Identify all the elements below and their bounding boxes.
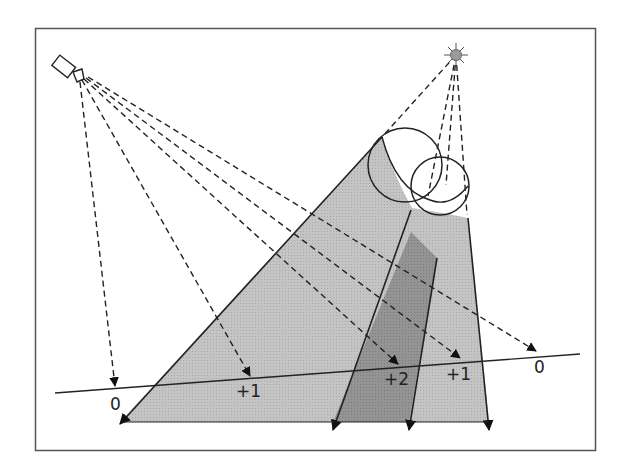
label-plus1-right: +1 xyxy=(446,366,471,383)
label-0-left: 0 xyxy=(110,396,121,413)
label-plus2: +2 xyxy=(384,371,409,388)
label-plus1-left: +1 xyxy=(236,383,261,400)
label-0-right: 0 xyxy=(534,359,545,376)
refraction-diagram xyxy=(0,0,624,471)
camera-icon xyxy=(52,55,84,82)
